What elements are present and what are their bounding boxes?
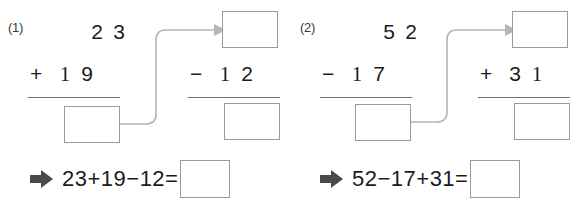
problem-2-right-result-box[interactable] [514, 103, 570, 140]
problem-2-left-bottom-number: − 1 7 [322, 62, 390, 87]
problem-1-left-top-number: 2 3 [62, 20, 130, 44]
problem-2-expression: 52−17+31= [352, 166, 468, 192]
problem-2-left-result-box[interactable] [355, 104, 411, 141]
arrow-right-icon [320, 170, 346, 188]
problem-2-equation: 52−17+31= [320, 160, 520, 198]
digit-ones: 9 [76, 62, 98, 86]
digit-tens: 5 [378, 20, 400, 44]
problem-1-equation: 23+19−12= [30, 160, 230, 198]
digit-tens: 1 [54, 62, 76, 87]
problem-2-right-rule [478, 97, 570, 98]
problem-label-1: (1) [8, 20, 23, 35]
problem-1-right-bottom-number: − 1 2 [190, 62, 258, 87]
problem-1-right-result-box[interactable] [224, 103, 280, 140]
digit-ones: 2 [236, 62, 258, 86]
problem-2: (2) 5 2 − 1 7 + 3 1 52−17+31= [292, 0, 584, 207]
operator-left-2: − [322, 62, 346, 86]
arrow-right-icon [30, 170, 56, 188]
problem-2-left-top-number: 5 2 [354, 20, 422, 44]
problem-1-left-bottom-number: + 1 9 [30, 62, 98, 87]
worksheet-page: (1) 2 3 + 1 9 − 1 2 23+19−12= [0, 0, 585, 207]
problem-label-2: (2) [300, 20, 315, 35]
digit-ones: 2 [400, 20, 422, 44]
problem-1-expression: 23+19−12= [62, 166, 178, 192]
problem-1-answer-box[interactable] [180, 160, 230, 198]
digit-ones: 1 [526, 62, 548, 87]
problem-1: (1) 2 3 + 1 9 − 1 2 23+19−12= [0, 0, 292, 207]
problem-2-right-top-box[interactable] [512, 11, 568, 48]
problem-1-right-top-box[interactable] [222, 11, 278, 48]
digit-tens: 1 [346, 62, 368, 87]
problem-2-right-bottom-number: + 3 1 [480, 62, 548, 87]
operator-right-1: − [190, 62, 214, 86]
operator-right-2: + [480, 62, 504, 86]
problem-2-answer-box[interactable] [470, 160, 520, 198]
problem-1-right-rule [188, 97, 280, 98]
problem-1-left-rule [28, 97, 120, 98]
digit-tens: 3 [504, 62, 526, 86]
operator-left-1: + [30, 62, 54, 86]
digit-tens: 2 [86, 20, 108, 44]
problem-1-left-result-box[interactable] [64, 106, 120, 143]
digit-ones: 3 [108, 20, 130, 44]
problem-2-left-rule [320, 97, 412, 98]
digit-tens: 1 [214, 62, 236, 87]
digit-ones: 7 [368, 62, 390, 86]
